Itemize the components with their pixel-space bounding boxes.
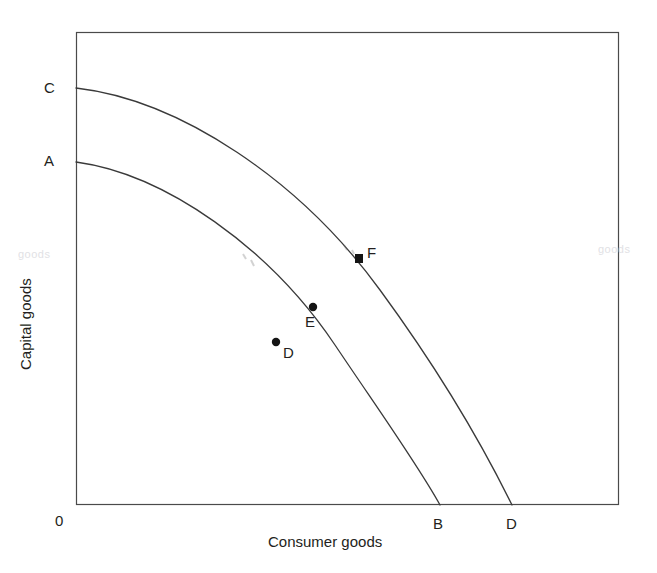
data-point-f	[355, 254, 363, 263]
point-label-e: E	[305, 314, 315, 329]
point-label-f: F	[367, 245, 376, 260]
watermark-right: goods	[598, 243, 630, 255]
data-point-e	[309, 303, 317, 311]
data-point-d-interior	[272, 338, 280, 346]
watermark-left: goods	[18, 248, 50, 260]
label-intercept-a: A	[44, 153, 54, 168]
label-origin: 0	[55, 513, 63, 528]
label-intercept-b: B	[433, 516, 443, 531]
label-intercept-d: D	[506, 516, 517, 531]
ppf-chart-svg	[0, 0, 657, 573]
point-label-d-interior: D	[283, 345, 294, 360]
y-axis-title: Capital goods	[18, 278, 33, 370]
ppf-figure: C A 0 B D E D F Capital goods Consumer g…	[0, 0, 657, 573]
x-axis-title: Consumer goods	[268, 534, 382, 549]
label-intercept-c: C	[44, 80, 55, 95]
plot-frame	[77, 33, 619, 505]
